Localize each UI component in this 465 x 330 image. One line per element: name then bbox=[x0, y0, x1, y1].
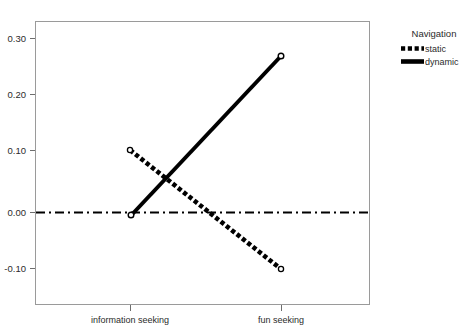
chart-svg: 0.30 0.20 0.10 0.00 -0.10 information se… bbox=[0, 0, 465, 330]
chart-background bbox=[0, 0, 465, 330]
data-point-dynamic-information-seeking bbox=[128, 212, 134, 218]
y-tick-label-0: 0.30 bbox=[8, 33, 27, 44]
data-point-dynamic-fun-seeking bbox=[278, 53, 284, 59]
x-tick-label-0: information seeking bbox=[91, 315, 169, 325]
data-point-static-fun-seeking bbox=[278, 266, 283, 271]
legend-label-static: static bbox=[425, 44, 447, 54]
y-tick-label-2: 0.10 bbox=[8, 145, 27, 156]
y-tick-label-3: 0.00 bbox=[8, 207, 27, 218]
y-tick-label-4: -0.10 bbox=[4, 263, 26, 274]
x-tick-label-1: fun seeking bbox=[258, 315, 304, 325]
legend-label-dynamic: dynamic bbox=[425, 57, 459, 67]
data-point-static-information-seeking bbox=[127, 147, 132, 152]
line-chart: 0.30 0.20 0.10 0.00 -0.10 information se… bbox=[0, 0, 465, 330]
legend-title: Navigation bbox=[412, 28, 457, 39]
y-tick-label-1: 0.20 bbox=[8, 89, 27, 100]
